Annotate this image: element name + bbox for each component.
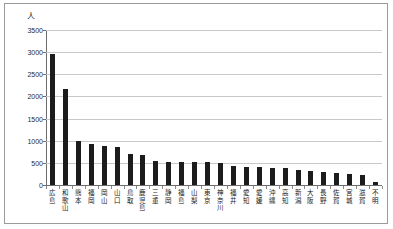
x-tick-mark [253, 186, 254, 189]
x-category-label: 不明 [369, 190, 382, 205]
x-category-label: 滋賀 [356, 190, 369, 205]
x-category-label: 神奈川 [214, 190, 227, 213]
x-category-label: 佐賀 [330, 190, 343, 205]
x-axis-category-labels: 広島和歌山熊本福岡岡山山口鳥取鹿児島三重静岡福島山梨東京神奈川福井愛知愛媛沖縄高… [46, 190, 382, 228]
x-category-label: 和歌山 [59, 190, 72, 213]
x-tick-mark [330, 186, 331, 189]
bar[interactable] [360, 175, 365, 185]
x-tick-mark [369, 186, 370, 189]
x-category-label: 三重 [149, 190, 162, 205]
bar[interactable] [102, 146, 107, 185]
x-tick-mark [175, 186, 176, 189]
x-category-label: 愛媛 [253, 190, 266, 205]
x-tick-mark [59, 186, 60, 189]
x-tick-mark [98, 186, 99, 189]
x-tick-mark [162, 186, 163, 189]
x-tick-mark [240, 186, 241, 189]
bar[interactable] [373, 182, 378, 185]
bar[interactable] [270, 168, 275, 185]
gridline [46, 119, 382, 120]
y-tick-label: 2000 [7, 93, 43, 100]
x-tick-mark [227, 186, 228, 189]
x-tick-mark [266, 186, 267, 189]
x-category-label: 福井 [227, 190, 240, 205]
x-category-label: 福島 [175, 190, 188, 205]
y-tick-label: 2500 [7, 71, 43, 78]
x-tick-mark [149, 186, 150, 189]
gridline [46, 74, 382, 75]
y-tick-label: 1000 [7, 138, 43, 145]
x-tick-mark [124, 186, 125, 189]
bar[interactable] [231, 166, 236, 185]
gridline [46, 141, 382, 142]
x-category-label: 山梨 [188, 190, 201, 205]
y-tick-label: 3000 [7, 49, 43, 56]
bar[interactable] [192, 162, 197, 185]
y-tick-label: 500 [7, 160, 43, 167]
bar[interactable] [205, 162, 210, 185]
bar[interactable] [244, 167, 249, 185]
bar[interactable] [308, 171, 313, 185]
bar[interactable] [63, 89, 68, 185]
x-tick-mark [214, 186, 215, 189]
x-tick-mark [111, 186, 112, 189]
bar[interactable] [115, 147, 120, 185]
bar[interactable] [166, 162, 171, 185]
bar[interactable] [128, 154, 133, 185]
bar[interactable] [218, 163, 223, 185]
bar[interactable] [283, 168, 288, 185]
x-category-label: 熊本 [72, 190, 85, 205]
x-tick-mark [85, 186, 86, 189]
bar[interactable] [257, 167, 262, 185]
x-category-label: 山口 [111, 190, 124, 205]
gridline [46, 163, 382, 164]
y-axis-tick-labels: 3500300025002000150010005000 [5, 30, 43, 186]
chart-container: 人 3500300025002000150010005000 広島和歌山熊本福岡… [4, 3, 388, 224]
x-tick-mark [46, 186, 47, 189]
x-tick-mark [72, 186, 73, 189]
bar[interactable] [334, 173, 339, 185]
bar[interactable] [347, 174, 352, 185]
x-tick-mark [201, 186, 202, 189]
x-category-label: 鹿児島 [136, 190, 149, 213]
x-category-label: 静岡 [162, 190, 175, 205]
bar[interactable] [140, 155, 145, 185]
x-category-label: 福岡 [85, 190, 98, 205]
x-category-label: 大阪 [304, 190, 317, 205]
x-tick-mark [304, 186, 305, 189]
bar[interactable] [321, 172, 326, 185]
x-category-label: 宮城 [343, 190, 356, 205]
x-category-label: 東京 [201, 190, 214, 205]
bar[interactable] [50, 54, 55, 185]
gridline [46, 52, 382, 53]
x-tick-mark [382, 186, 383, 189]
bar[interactable] [89, 144, 94, 185]
plot-area [46, 30, 382, 185]
y-tick-label: 1500 [7, 116, 43, 123]
x-category-label: 高知 [279, 190, 292, 205]
x-category-label: 岡山 [98, 190, 111, 205]
bar[interactable] [76, 141, 81, 185]
x-tick-mark [136, 186, 137, 189]
x-tick-mark [317, 186, 318, 189]
bar[interactable] [179, 162, 184, 185]
x-tick-mark [188, 186, 189, 189]
y-tick-label: 0 [7, 182, 43, 189]
y-axis-unit-label: 人 [27, 12, 35, 22]
x-category-label: 愛知 [240, 190, 253, 205]
x-category-label: 沖縄 [266, 190, 279, 205]
x-category-label: 長野 [317, 190, 330, 205]
gridline [46, 30, 382, 31]
gridline [46, 96, 382, 97]
x-tick-mark [279, 186, 280, 189]
x-category-label: 広島 [46, 190, 59, 205]
bar[interactable] [296, 170, 301, 185]
y-tick-label: 3500 [7, 27, 43, 34]
x-tick-mark [292, 186, 293, 189]
x-tick-mark [343, 186, 344, 189]
x-tick-mark [356, 186, 357, 189]
bar[interactable] [153, 161, 158, 185]
